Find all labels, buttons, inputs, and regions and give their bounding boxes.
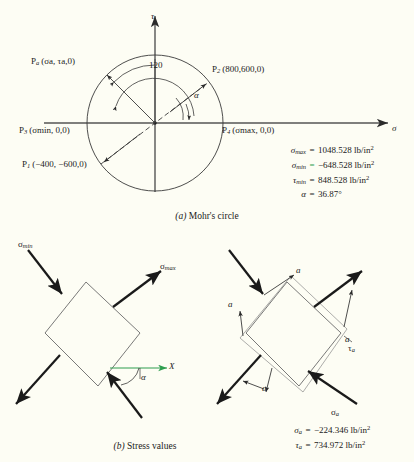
result-tau-min-symbol-group: τmin: [276, 175, 306, 185]
result-row-tau-min: τmin=848.528 lb/in2: [276, 174, 369, 185]
point-p4-sub: 4: [227, 128, 230, 135]
point-pa-coords: (σa, τa,0): [41, 56, 75, 66]
shear-arrow-right: [344, 290, 352, 327]
caption-b-label: (b): [114, 441, 125, 451]
label-corner-a-top: a: [296, 266, 301, 275]
point-p2-sub: 2: [217, 67, 220, 74]
caption-panel-a: (a) Mohr's circle: [0, 211, 414, 221]
result-sigma-a-symbol-group: σa: [286, 425, 302, 435]
result-alpha-equals: =: [306, 189, 318, 199]
sigma-min-arrow-bottom: [16, 355, 60, 404]
result-sigma-min-exponent: 2: [371, 159, 374, 166]
result-tau-a-value: 734.972 lb/in: [314, 440, 362, 450]
sigma-max-arrow-top-right: [314, 271, 362, 307]
angle-arc-alpha: [176, 98, 183, 120]
result-tau-a-equals: =: [302, 440, 314, 450]
result-sigma-max-symbol-group: σmax: [276, 145, 306, 155]
result-sigma-min-symbol-group: σmin: [276, 160, 306, 170]
point-p4-coords: (σmax, 0,0): [232, 125, 274, 135]
tau-axis-label: τ: [151, 12, 154, 21]
p1-arrow: [104, 134, 140, 162]
angle-arc-alpha-2: [186, 104, 189, 120]
result-sigma-min-value: −648.528 lb/in: [318, 160, 371, 170]
point-p1-coords: (−400, −600,0): [32, 159, 86, 169]
result-sigma-max-equals: =: [306, 145, 318, 155]
stress-element-right: [217, 250, 362, 404]
point-label-pa: Pa(σa, τa,0): [31, 57, 75, 67]
label-sigma-min-left: σmin: [18, 240, 33, 250]
result-tau-min-equals: =: [306, 175, 318, 185]
result-row-alpha: α=36.87°: [276, 189, 342, 199]
shear-arrow-bottom-left: [243, 381, 264, 389]
figure-page: τ σ 120 α Pa(σa, τa,0) P2(800,600,0) P3(…: [0, 0, 414, 462]
point-p3-coords: (σmin, 0,0): [29, 125, 70, 135]
stress-element-left: [16, 250, 167, 418]
result-tau-min-subscript: min: [296, 178, 306, 185]
caption-a-text: Mohr's circle: [189, 211, 239, 221]
result-sigma-a-equals: =: [302, 425, 314, 435]
p2-arrow: [170, 84, 206, 112]
result-row-sigma-min: σmin=−648.528 lb/in2: [276, 159, 374, 170]
result-tau-a-exponent: 2: [362, 439, 365, 446]
sigma-min-arrow-top: [28, 250, 62, 294]
angle-label-120: 120: [149, 61, 163, 70]
label-alpha-left: α: [141, 373, 146, 382]
result-tau-min-exponent: 2: [366, 174, 369, 181]
result-row-sigma-max: σmax=1048.528 lb/in2: [276, 144, 374, 155]
result-sigma-max-exponent: 2: [371, 144, 374, 151]
sigma-a-arrow: [308, 371, 357, 404]
label-x-axis-left: X: [169, 362, 175, 371]
figure-graphics: [0, 0, 414, 462]
label-corner-a-bottom: a: [262, 384, 267, 393]
result-alpha-value: 36.87°: [318, 189, 342, 199]
label-sigma-a: σa: [331, 408, 339, 418]
caption-panel-b: (b) Stress values: [0, 441, 290, 451]
angle-label-alpha: α: [194, 91, 199, 100]
shear-arrow-left: [240, 311, 243, 336]
result-row-sigma-a: σa=−224.346 lb/in2: [286, 424, 370, 435]
label-sigma-max-left: σmax: [160, 262, 176, 272]
sigma-min-arrow-top-right: [229, 250, 263, 294]
result-sigma-a-value: −224.346 lb/in: [314, 425, 367, 435]
point-p2-coords: (800,600,0): [222, 64, 264, 74]
result-sigma-min-subscript: min: [296, 163, 306, 170]
point-label-p3: P3(σmin, 0,0): [19, 126, 70, 136]
result-tau-min-value: 848.528 lb/in: [318, 175, 366, 185]
result-alpha-symbol-group: α: [276, 189, 306, 199]
label-tau-a: τa: [348, 344, 355, 354]
point-label-p4: P4(σmax, 0,0): [222, 126, 274, 136]
caption-b-text: Stress values: [127, 441, 176, 451]
result-sigma-max-value: 1048.528 lb/in: [318, 145, 371, 155]
sigma-max-arrow-top: [113, 271, 161, 307]
point-label-p2: P2(800,600,0): [212, 65, 264, 75]
sigma-max-arrow-bottom: [107, 372, 142, 418]
result-sigma-max-subscript: max: [295, 148, 306, 155]
point-label-p1: P1(−400, −600,0): [22, 160, 87, 170]
point-pa-sub: a: [36, 59, 39, 66]
sigma-min-arrow-bottom-right: [217, 355, 261, 404]
label-corner-a-left: a: [228, 300, 233, 309]
radius-pa: [107, 75, 155, 123]
sigma-axis-label: σ: [392, 124, 396, 133]
result-row-tau-a: τa=734.972 lb/in2: [286, 439, 365, 450]
caption-a-label: (a): [175, 211, 186, 221]
point-p3-sub: 3: [24, 128, 27, 135]
result-sigma-min-equals: =: [306, 160, 318, 170]
alpha-arc-left: [121, 368, 139, 385]
point-p1-sub: 1: [27, 162, 30, 169]
result-sigma-a-exponent: 2: [367, 424, 370, 431]
